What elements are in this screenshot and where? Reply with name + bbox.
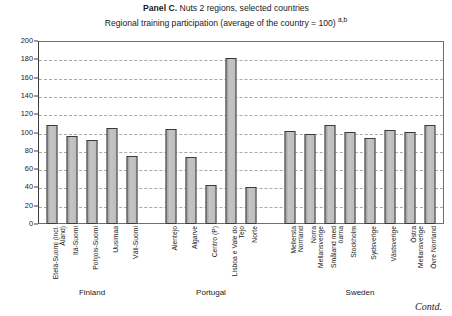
bar-slot	[42, 41, 62, 224]
country-group-label: Finland	[79, 288, 105, 298]
bar-slot	[380, 41, 400, 224]
x-axis-tick-label: Lisboa e Vale doTejo	[221, 224, 241, 290]
bar-slot	[181, 41, 201, 224]
x-axis-tick-label-line: Östra	[410, 226, 417, 243]
x-axis-tick-label: Småland medöarna	[320, 224, 340, 290]
bar-slot	[82, 41, 102, 224]
x-axis-tick-label-text: Norte	[251, 226, 258, 243]
x-axis-tick-label-text: Alentejo	[171, 226, 178, 251]
country-group-label: Portugal	[196, 288, 226, 298]
chart-title-line-1: Panel C. Nuts 2 regions, selected countr…	[0, 3, 452, 14]
bar[interactable]	[305, 134, 316, 224]
y-axis-tick-label: 200	[21, 37, 33, 44]
bar-slot	[320, 41, 340, 224]
bar[interactable]	[425, 125, 436, 224]
bar[interactable]	[405, 132, 416, 224]
bar-slot	[300, 41, 320, 224]
bar[interactable]	[166, 129, 177, 224]
bar[interactable]	[67, 136, 78, 224]
country-group-label: Sweden	[346, 288, 375, 298]
bar-slot	[400, 41, 420, 224]
x-axis-tick-label-text: Itä-Suomi	[72, 226, 79, 255]
bar[interactable]	[186, 157, 197, 224]
y-axis-tick-label: 120	[21, 110, 33, 117]
x-axis-tick-label: Algarve	[181, 224, 201, 290]
x-axis-tick-label: Itä-Suomi	[62, 224, 82, 290]
x-axis-tick-label-line: Algarve	[191, 226, 198, 249]
bar[interactable]	[87, 140, 98, 224]
y-axis-tick-label: 100	[21, 129, 33, 136]
x-axis-tick-label: Centro (P)	[201, 224, 221, 290]
x-axis-tick-label: Övre Norrland	[420, 224, 440, 290]
bar[interactable]	[107, 128, 118, 224]
country-group-labels: FinlandPortugalSweden	[38, 288, 444, 302]
y-axis: 020406080100120140160180200	[0, 36, 38, 229]
x-axis-tick-label-line: Centro (P)	[211, 226, 218, 257]
y-axis-tick-label: 140	[21, 92, 33, 99]
bar-slot	[280, 41, 300, 224]
x-axis-tick-label-line: Pohjois-Suomi	[92, 226, 99, 270]
bar[interactable]	[285, 131, 296, 224]
x-axis-tick-label-text: Väli-Suomi	[132, 226, 139, 259]
x-axis-tick-label: ÖstraMellansverige	[400, 224, 420, 290]
bar-slot	[161, 41, 181, 224]
x-axis-tick-label: NorraMellansverige	[300, 224, 320, 290]
x-axis-tick-label-line: Sydsverige	[370, 226, 377, 260]
bar[interactable]	[246, 187, 257, 225]
x-axis-tick-label: Stockholm	[340, 224, 360, 290]
bar[interactable]	[127, 156, 138, 224]
x-axis-tick-label: Pohjois-Suomi	[82, 224, 102, 290]
bar[interactable]	[47, 125, 58, 224]
y-axis-tick-label: 0	[29, 220, 33, 227]
bar-slot	[340, 41, 360, 224]
x-axis-tick-label: Västsverige	[380, 224, 400, 290]
x-axis-tick-label-text: Pohjois-Suomi	[92, 226, 99, 270]
bar[interactable]	[365, 138, 376, 224]
x-axis-tick-label-text: Algarve	[191, 226, 198, 249]
contd-note: Contd.	[415, 301, 442, 312]
bar[interactable]	[345, 132, 356, 224]
chart-title-block: Panel C. Nuts 2 regions, selected countr…	[0, 3, 452, 29]
x-axis-tick-label-line: Norte	[251, 226, 258, 243]
x-axis-tick-label-line: Mellersta	[290, 226, 297, 254]
x-axis-tick-label-text: Övre Norrland	[430, 226, 437, 269]
x-axis-tick-label: MellerstaNorrland	[280, 224, 300, 290]
x-axis-tick-label: Väli-Suomi	[122, 224, 142, 290]
subtitle-text: Regional training participation (average…	[105, 18, 338, 28]
x-axis-tick-label-line: Väli-Suomi	[132, 226, 139, 259]
x-axis-tick-label-text: Centro (P)	[211, 226, 218, 257]
bar[interactable]	[385, 130, 396, 224]
x-axis-tick-label: Norte	[241, 224, 261, 290]
x-axis-tick-label-line: Småland med	[330, 226, 337, 268]
bar-slot	[420, 41, 440, 224]
x-axis-tick-label-line: Etelä-Suomi (incl.	[52, 226, 59, 279]
bar-slot	[122, 41, 142, 224]
chart-title-line-2: Regional training participation (average…	[0, 14, 452, 29]
x-axis-tick-label-text: Sydsverige	[370, 226, 377, 260]
y-axis-tick-label: 40	[25, 184, 33, 191]
y-axis-tick-label: 60	[25, 165, 33, 172]
footnote-marker: a,b	[338, 16, 347, 23]
x-axis-tick-label-line: Lisboa e Vale do	[231, 226, 238, 276]
bar[interactable]	[206, 185, 217, 224]
bar-slot	[241, 41, 261, 224]
panel-label: Panel C.	[143, 3, 177, 13]
bar-slot	[62, 41, 82, 224]
x-axis-tick-label-line: Norra	[310, 226, 317, 243]
bar-slot	[221, 41, 241, 224]
bars-layer	[38, 41, 444, 224]
x-axis-tick-label: Alentejo	[161, 224, 181, 290]
y-axis-tick-label: 80	[25, 147, 33, 154]
x-axis-tick-label: Etelä-Suomi (incl.Åland)	[42, 224, 62, 290]
bar-slot	[102, 41, 122, 224]
bar-slot	[360, 41, 380, 224]
x-axis-tick-label-text: Uusimaa	[112, 226, 119, 253]
x-axis-tick-label-line: Itä-Suomi	[72, 226, 79, 255]
bar[interactable]	[325, 125, 336, 224]
x-axis-tick-label-line: Västsverige	[390, 226, 397, 262]
y-axis-tick-label: 20	[25, 202, 33, 209]
title-line-1-rest: Nuts 2 regions, selected countries	[177, 3, 309, 13]
x-axis-tick-label-line: Uusimaa	[112, 226, 119, 253]
x-axis-tick-label-text: Västsverige	[390, 226, 397, 262]
bar[interactable]	[226, 58, 237, 224]
